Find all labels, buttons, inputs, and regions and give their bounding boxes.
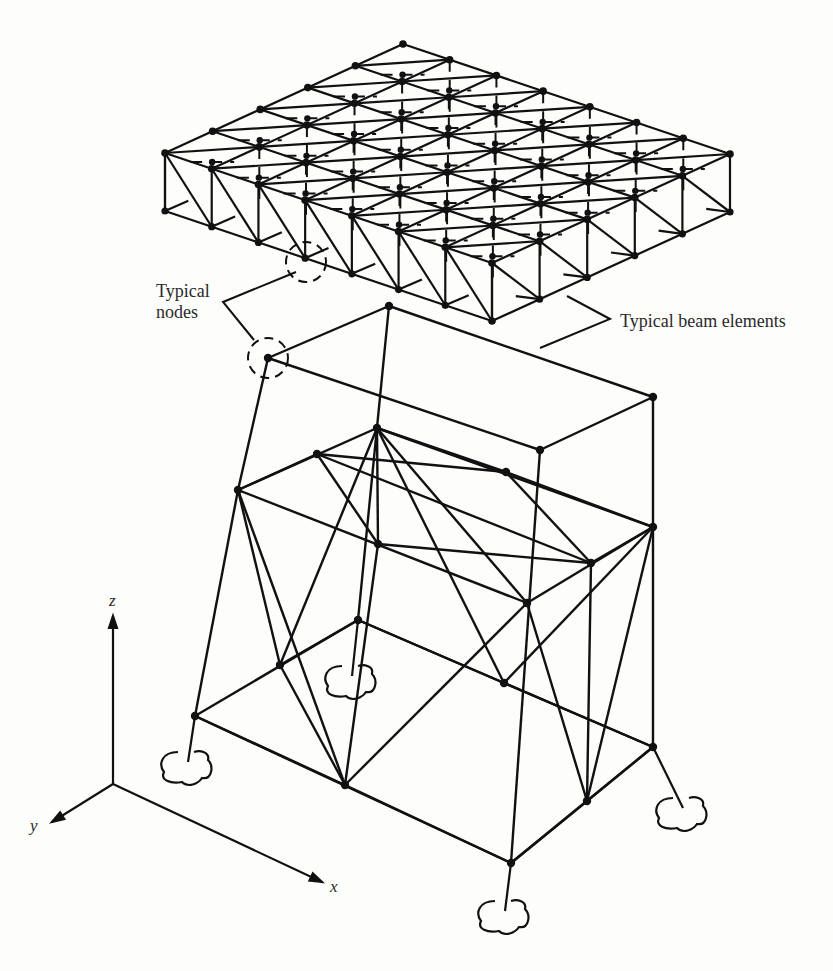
node xyxy=(349,175,357,183)
grid-web xyxy=(399,279,422,289)
footing-icon xyxy=(161,751,211,785)
footing-icon xyxy=(325,665,375,699)
node xyxy=(583,797,591,805)
node xyxy=(399,72,405,78)
node xyxy=(256,174,262,180)
node xyxy=(500,679,508,687)
node xyxy=(537,231,543,237)
grid-web xyxy=(165,201,188,211)
typical-beam-elements-leader xyxy=(540,296,610,348)
node xyxy=(255,181,263,189)
node xyxy=(631,194,639,202)
grid-web-diagonal xyxy=(352,216,399,290)
node xyxy=(538,194,544,200)
node xyxy=(444,131,452,139)
node xyxy=(350,137,358,145)
node xyxy=(726,150,734,158)
grid-web-diagonal xyxy=(540,241,588,277)
node xyxy=(399,40,407,48)
node xyxy=(303,121,311,129)
node xyxy=(446,56,454,64)
node xyxy=(540,119,546,125)
grid-diagonal xyxy=(165,147,259,153)
grid-web-diagonal xyxy=(445,247,492,321)
node xyxy=(492,109,500,117)
frame-beam-element xyxy=(358,620,504,683)
grid-web xyxy=(445,295,468,305)
node xyxy=(632,156,640,164)
frame-beam-element xyxy=(195,490,238,716)
grid-web xyxy=(258,232,281,242)
node xyxy=(587,559,595,567)
node xyxy=(351,131,357,137)
frame-beam-element xyxy=(238,454,317,490)
node xyxy=(443,237,449,243)
x-axis-label: x xyxy=(330,876,338,897)
node xyxy=(536,296,543,303)
z-axis-arrowhead-icon xyxy=(109,616,117,628)
grid-diagonal xyxy=(213,125,307,131)
node xyxy=(490,184,498,192)
grid-web-diagonal xyxy=(587,219,635,255)
node xyxy=(396,190,404,198)
node xyxy=(523,599,531,607)
node xyxy=(539,156,545,162)
node xyxy=(536,446,544,454)
typical-nodes-label-line2: nodes xyxy=(156,302,210,323)
node xyxy=(584,274,591,281)
node xyxy=(649,393,657,401)
node xyxy=(208,223,215,230)
node xyxy=(398,147,404,153)
frame-beam-element xyxy=(268,306,389,358)
node xyxy=(442,206,450,214)
node xyxy=(373,424,381,432)
figure-canvas: Typical nodes Typical beam elements z y … xyxy=(0,0,833,971)
frame-beam-element xyxy=(527,603,587,801)
node xyxy=(257,137,263,143)
space-frame-diagram xyxy=(0,0,833,971)
node xyxy=(489,222,497,230)
typical-nodes-leader xyxy=(223,272,296,340)
node xyxy=(502,468,510,476)
frame-beam-element xyxy=(389,306,653,397)
grid-web xyxy=(352,264,375,274)
node xyxy=(491,147,499,155)
node xyxy=(348,212,356,220)
node xyxy=(679,172,687,180)
grid-web-diagonal xyxy=(682,176,730,212)
grid-diagonal xyxy=(355,60,449,66)
frame-beam-element xyxy=(317,454,591,563)
node xyxy=(304,115,310,121)
node xyxy=(208,165,216,173)
node xyxy=(680,166,686,172)
node xyxy=(352,93,358,99)
frame-beam-element xyxy=(511,801,587,863)
node xyxy=(445,125,451,131)
node xyxy=(492,141,498,147)
support-post xyxy=(505,863,511,911)
node xyxy=(209,159,215,165)
node xyxy=(264,354,272,362)
node xyxy=(256,106,264,114)
label-leader-lines xyxy=(223,272,610,348)
node xyxy=(352,62,360,70)
node xyxy=(397,184,403,190)
node xyxy=(726,208,733,215)
node xyxy=(351,100,359,108)
node xyxy=(395,286,402,293)
x-axis xyxy=(113,784,322,882)
node xyxy=(349,206,355,212)
node xyxy=(633,119,641,127)
node xyxy=(583,216,591,224)
frame-beam-element xyxy=(506,472,591,563)
typical-node-highlight-circles xyxy=(248,242,326,378)
node xyxy=(488,317,495,324)
typical-nodes-label-line1: Typical xyxy=(156,281,210,302)
node xyxy=(585,141,593,149)
node xyxy=(354,616,362,624)
node xyxy=(538,162,546,170)
node xyxy=(350,168,356,174)
node xyxy=(302,190,308,196)
node xyxy=(632,188,638,194)
node xyxy=(631,252,638,259)
